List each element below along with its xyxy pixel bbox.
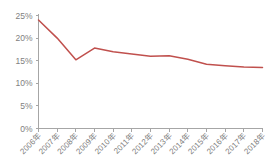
series-line [39,20,263,67]
y-tick-label: 20% [15,33,32,43]
x-tick-label: 2018年 [242,131,267,156]
y-tick-label: 15% [15,56,32,66]
y-axis: 0%5%10%15%20%25% [15,11,38,134]
chart-plot-area: 0%5%10%15%20%25% 2006年2007年2008年2009年201… [0,0,271,166]
y-tick-label: 25% [15,11,32,21]
y-tick-label: 5% [20,101,33,111]
x-axis: 2006年2007年2008年2009年2010年2011年2012年2013年… [18,129,267,157]
line-chart: 0%5%10%15%20%25% 2006年2007年2008年2009年201… [0,0,271,166]
data-series [39,20,263,67]
y-tick-label: 10% [15,78,32,88]
y-tick-label: 0% [20,124,33,134]
